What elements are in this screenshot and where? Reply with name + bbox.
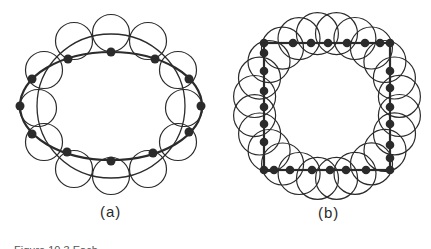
covering-circle	[364, 41, 406, 83]
sensor-node	[260, 49, 269, 58]
sensor-node	[260, 39, 269, 48]
sensor-node	[386, 154, 395, 163]
covering-circle	[364, 129, 406, 171]
sensor-node	[289, 39, 298, 48]
sensor-node	[185, 128, 194, 137]
covering-circle	[248, 130, 290, 172]
sensor-node	[197, 102, 206, 111]
sensor-node	[342, 166, 351, 175]
sensor-node	[326, 166, 335, 175]
figure-canvas	[0, 0, 431, 249]
boundary-square	[264, 43, 390, 170]
sensor-node	[16, 102, 25, 111]
sensor-node	[270, 166, 279, 175]
sensor-node	[185, 75, 194, 84]
covering-circle	[93, 15, 130, 52]
sensor-node	[260, 67, 269, 76]
sensor-node	[386, 103, 395, 112]
panel-b-label: (b)	[318, 204, 339, 221]
sensor-node	[386, 141, 395, 150]
covering-circle	[262, 27, 304, 69]
sensor-node	[307, 39, 316, 48]
panel-a-label: (a)	[100, 203, 121, 220]
sensor-node	[149, 149, 158, 158]
sensor-node	[260, 166, 269, 175]
sensor-node	[260, 138, 269, 147]
sensor-node	[28, 130, 37, 139]
sensor-node	[308, 166, 317, 175]
sensor-node	[260, 87, 269, 96]
sensor-node	[64, 55, 73, 64]
sensor-node	[361, 39, 370, 48]
figure-caption: Figure 10.3 Each	[14, 243, 98, 249]
sensor-node	[151, 55, 160, 64]
sensor-node	[63, 148, 72, 157]
covering-circle	[350, 27, 392, 69]
sensor-node	[260, 103, 269, 112]
sensor-node	[386, 166, 395, 175]
sensor-node	[260, 120, 269, 129]
sensor-node	[343, 39, 352, 48]
covering-circle	[262, 143, 304, 185]
sensor-node	[362, 166, 371, 175]
sensor-node	[386, 39, 395, 48]
sensor-node	[107, 157, 116, 166]
sensor-node	[324, 39, 333, 48]
sensor-node	[28, 75, 37, 84]
covering-circle	[248, 41, 290, 83]
sensor-node	[107, 48, 116, 57]
boundary-ellipse	[20, 52, 202, 160]
sensor-node	[386, 84, 395, 93]
panel-b-square-cover	[234, 13, 421, 200]
sensor-node	[286, 166, 295, 175]
sensor-node	[386, 67, 395, 76]
sensor-node	[386, 120, 395, 129]
panel-a-ellipse-cover	[16, 15, 206, 195]
covering-circle	[351, 143, 393, 185]
sensor-node	[376, 39, 385, 48]
